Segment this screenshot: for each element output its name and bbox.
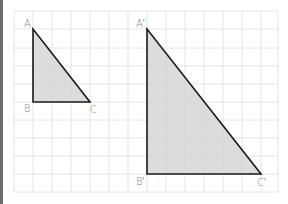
label-a-prime: A′ [136, 18, 145, 29]
label-c: C [90, 104, 97, 115]
label-c-prime: C′ [257, 177, 266, 188]
label-b-prime: B′ [136, 176, 145, 187]
label-b: B [24, 103, 31, 114]
similar-triangles-figure: A B C A′ B′ C′ [0, 0, 288, 204]
label-a: A [24, 18, 31, 29]
